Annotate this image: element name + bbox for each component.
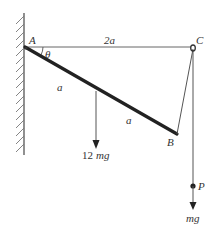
weight-arrow-particle bbox=[190, 186, 197, 210]
string-CB bbox=[177, 49, 193, 134]
diagram-canvas: A 2a C θ a a B 12mg P mg bbox=[0, 0, 212, 234]
label-mg: mg bbox=[186, 212, 200, 224]
weight-arrow-rod bbox=[93, 91, 100, 149]
label-P: P bbox=[197, 180, 205, 192]
label-a-upper: a bbox=[57, 81, 63, 93]
label-a-lower: a bbox=[126, 114, 132, 126]
label-12mg: 12mg bbox=[82, 149, 110, 161]
label-12mg-number: 12 bbox=[82, 149, 93, 161]
label-theta: θ bbox=[45, 48, 51, 60]
rod-AB bbox=[25, 47, 177, 134]
wall bbox=[16, 13, 24, 155]
label-A: A bbox=[28, 34, 36, 46]
angle-arc bbox=[41, 47, 43, 55]
hinge-A bbox=[24, 46, 27, 49]
label-12mg-var: mg bbox=[96, 149, 110, 161]
label-B: B bbox=[167, 136, 174, 148]
label-2a: 2a bbox=[104, 34, 116, 46]
label-C: C bbox=[196, 34, 204, 46]
